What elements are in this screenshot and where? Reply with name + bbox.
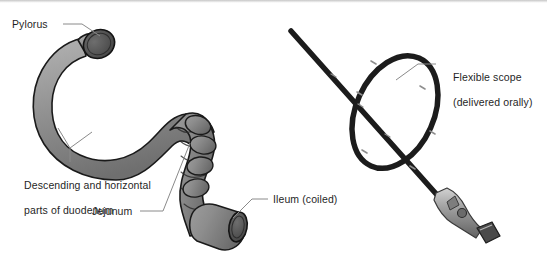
scope-control-knob (458, 209, 467, 218)
anatomy-figure: Pylorus Descending and horizontal parts … (0, 0, 547, 274)
figure-canvas (0, 0, 547, 274)
scope-loop (335, 42, 454, 182)
scope-connector-tip (477, 222, 500, 243)
label-jejunum: Jejunum (92, 205, 132, 218)
label-duodenum-line1: Descending and horizontal (24, 179, 151, 191)
pylorus-cut-face (78, 24, 119, 64)
label-pylorus: Pylorus (12, 18, 48, 31)
label-scope-line1: Flexible scope (453, 71, 522, 83)
duodenum-shape (33, 38, 214, 180)
label-flexible-scope: Flexible scope (delivered orally) (441, 58, 533, 121)
label-duodenum: Descending and horizontal parts of duode… (12, 166, 151, 229)
label-scope-line2: (delivered orally) (453, 96, 532, 108)
label-ileum: Ileum (coiled) (273, 193, 337, 206)
